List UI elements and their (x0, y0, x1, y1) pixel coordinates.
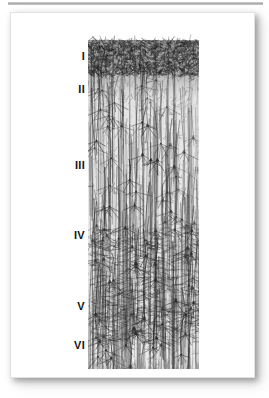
cortical-section-svg (88, 28, 199, 369)
layer-label-V: V (77, 301, 85, 312)
layer-label-VI: VI (74, 340, 85, 351)
layer-label-II: II (78, 84, 85, 95)
figure-card: I II III IV V VI Golgi-stained vertical … (10, 12, 255, 378)
top-divider-rule (8, 2, 263, 5)
layer-label-I: I (82, 51, 85, 62)
layer-label-column: I II III IV V VI (11, 13, 85, 377)
cortical-section-image (88, 28, 199, 369)
layer-label-IV: IV (74, 230, 85, 241)
layer-label-III: III (75, 160, 85, 171)
